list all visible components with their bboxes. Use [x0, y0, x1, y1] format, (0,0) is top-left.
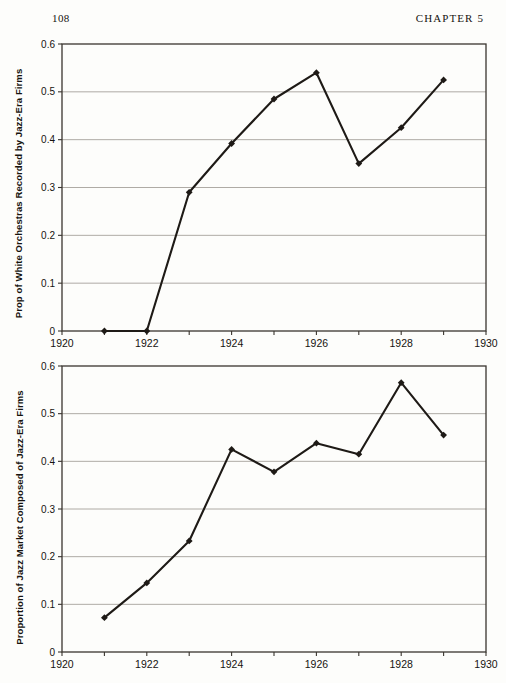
x-tick-label-4: 1924 [220, 658, 244, 670]
x-tick-label-8: 1928 [390, 337, 414, 349]
page-number: 108 [52, 12, 70, 24]
x-tick-label-2: 1922 [135, 337, 159, 349]
x-tick-label-0: 1920 [50, 337, 74, 349]
chart-bottom: Proportion of Jazz Market Composed of Ja… [0, 356, 506, 678]
data-series-line [104, 383, 443, 618]
x-tick-label-6: 1926 [305, 337, 329, 349]
x-tick-label-10: 1930 [474, 658, 498, 670]
book-page: 108 CHAPTER 5 Prop of White Orchestras R… [0, 0, 506, 683]
x-tick-label-0: 1920 [50, 658, 74, 670]
chart-bottom-svg: 00.10.20.30.40.50.6192019221924192619281… [0, 356, 506, 678]
y-tick-label-4: 0.4 [41, 134, 55, 145]
y-tick-label-1: 0.1 [41, 278, 55, 289]
chart-top-plot-area: 00.10.20.30.40.50.6192019221924192619281… [0, 34, 506, 352]
y-tick-label-0: 0 [49, 647, 55, 658]
chart-top-svg: 00.10.20.30.40.50.6192019221924192619281… [0, 34, 506, 352]
chapter-title: CHAPTER 5 [416, 12, 484, 24]
y-tick-label-6: 0.6 [41, 39, 55, 50]
y-tick-label-0: 0 [49, 326, 55, 337]
data-series-line [104, 73, 443, 331]
x-tick-label-10: 1930 [474, 337, 498, 349]
data-point-marker [101, 328, 108, 335]
chart-top: Prop of White Orchestras Recorded by Jaz… [0, 34, 506, 352]
y-tick-label-3: 0.3 [41, 504, 55, 515]
y-tick-label-5: 0.5 [41, 408, 55, 419]
y-tick-label-2: 0.2 [41, 230, 55, 241]
x-tick-label-4: 1924 [220, 337, 244, 349]
y-tick-label-5: 0.5 [41, 86, 55, 97]
y-tick-label-2: 0.2 [41, 551, 55, 562]
x-tick-label-2: 1922 [135, 658, 159, 670]
data-point-marker [143, 328, 150, 335]
x-tick-label-6: 1926 [305, 658, 329, 670]
y-tick-label-1: 0.1 [41, 599, 55, 610]
y-tick-label-4: 0.4 [41, 456, 55, 467]
chart-bottom-plot-area: 00.10.20.30.40.50.6192019221924192619281… [0, 356, 506, 678]
x-tick-label-8: 1928 [390, 658, 414, 670]
running-head: 108 CHAPTER 5 [0, 12, 506, 30]
y-tick-label-3: 0.3 [41, 182, 55, 193]
y-tick-label-6: 0.6 [41, 361, 55, 372]
